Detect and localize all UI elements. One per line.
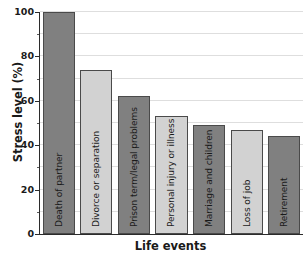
bars-layer: Death of partnerDivorce or separationPri… (40, 12, 303, 234)
bar[interactable]: Loss of job (231, 130, 263, 234)
bar-label: Loss of job (242, 180, 252, 227)
bar-label: Personal injury or illness (166, 119, 176, 227)
plot-area: Death of partnerDivorce or separationPri… (39, 12, 303, 235)
y-axis-tick-label: 0 (8, 229, 34, 239)
y-axis-tick-label: 100 (8, 7, 34, 17)
bar-label: Prison term/legal problems (129, 107, 139, 227)
bar[interactable]: Divorce or separation (80, 70, 112, 234)
bar[interactable]: Retirement (268, 136, 300, 234)
bar-label: Retirement (279, 178, 289, 228)
bar[interactable]: Personal injury or illness (155, 116, 187, 234)
bar-chart: Stress level (%) 020406080100 Death of p… (0, 0, 305, 260)
y-axis-tick-label: 20 (8, 185, 34, 195)
y-axis-tick-label: 40 (8, 140, 34, 150)
bar[interactable]: Death of partner (43, 12, 75, 234)
bar-label: Death of partner (54, 153, 64, 227)
y-axis-tick-label: 60 (8, 96, 34, 106)
y-axis-tick-label: 80 (8, 52, 34, 62)
bar[interactable]: Prison term/legal problems (118, 96, 150, 234)
x-axis-title: Life events (39, 239, 302, 253)
bar-label: Divorce or separation (91, 131, 101, 227)
bar[interactable]: Marriage and children (193, 125, 225, 234)
y-axis-tick-labels: 020406080100 (8, 0, 34, 260)
bar-label: Marriage and children (204, 129, 214, 227)
